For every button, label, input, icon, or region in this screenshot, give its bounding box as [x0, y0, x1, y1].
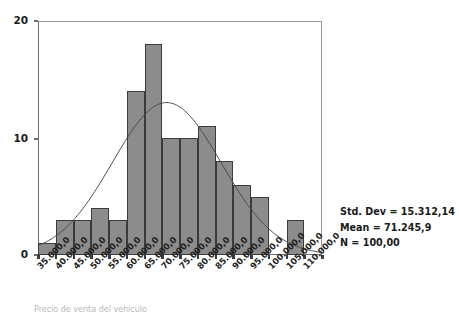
- n-text: N = 100,00: [340, 235, 458, 251]
- histogram-chart: 20 10 0 35.000,040.000,045.000,050.000,0…: [0, 0, 459, 318]
- x-axis-labels: 35.000,040.000,045.000,050.000,055.000,0…: [0, 0, 459, 318]
- chart-caption: Precio de venta del vehículo: [34, 305, 147, 314]
- mean-text: Mean = 71.245,9: [340, 220, 458, 236]
- statistics-annotation: Std. Dev = 15.312,14 Mean = 71.245,9 N =…: [340, 204, 458, 251]
- std-dev-text: Std. Dev = 15.312,14: [340, 204, 458, 220]
